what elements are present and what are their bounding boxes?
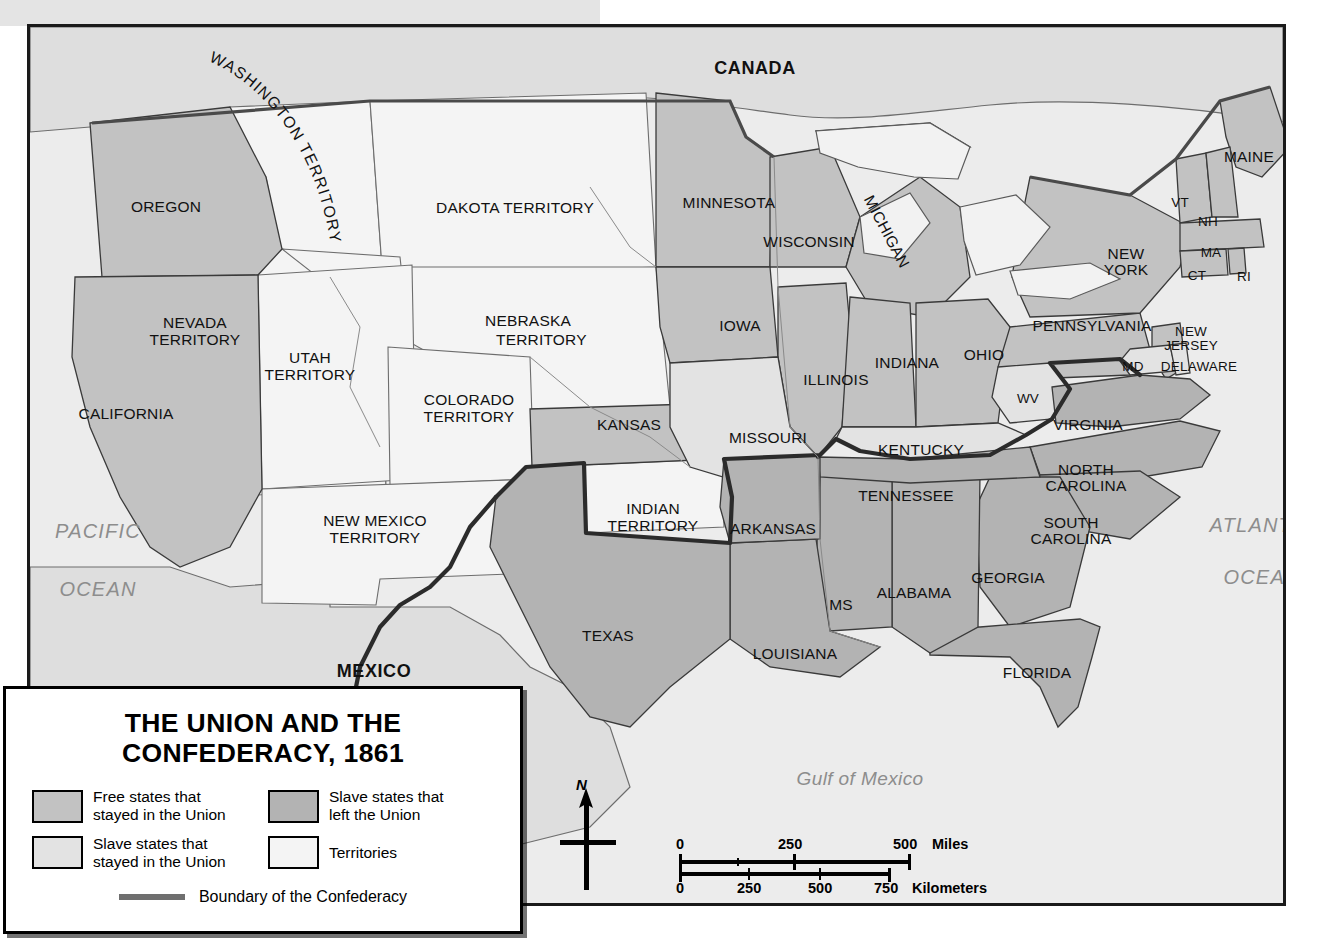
legend-swatch-free-states-union: [32, 790, 83, 823]
legend-label-line2: stayed in the Union: [93, 853, 226, 870]
scale-unit-miles: Miles: [932, 836, 968, 852]
legend-title-line2: CONFEDERACY, 1861: [122, 738, 404, 768]
scale-km-tick-0: 0: [676, 880, 684, 896]
legend-label-line1: Slave states that: [93, 835, 208, 852]
scale-miles-tick-500: 500: [893, 836, 917, 852]
scale-km-tick-750: 750: [874, 880, 898, 896]
legend-label-line2: stayed in the Union: [93, 806, 226, 823]
compass-north-label: N: [576, 776, 587, 793]
legend-item-free-states-union[interactable]: Free states thatstayed in the Union: [32, 788, 258, 824]
map-legend: THE UNION AND THECONFEDERACY, 1861 Free …: [3, 686, 523, 934]
scale-km-tick-500: 500: [808, 880, 832, 896]
legend-item-territories[interactable]: Territories: [268, 835, 494, 871]
legend-title: THE UNION AND THECONFEDERACY, 1861: [22, 709, 504, 768]
legend-label-line1: Slave states that: [329, 788, 444, 805]
legend-item-slave-states-stayed[interactable]: Slave states thatstayed in the Union: [32, 835, 258, 871]
legend-title-line1: THE UNION AND THE: [125, 708, 402, 738]
compass-rose: N: [560, 778, 616, 894]
legend-label-territories: Territories: [329, 844, 397, 862]
legend-label-slave-states-stayed: Slave states thatstayed in the Union: [93, 835, 226, 871]
legend-line-confederacy-boundary: [119, 894, 185, 900]
map-page: .terr { fill:#f4f4f4; stroke:#6d6d6d; st…: [0, 0, 1319, 948]
legend-label-confederacy-boundary: Boundary of the Confederacy: [199, 888, 407, 906]
legend-label-free-states-union: Free states thatstayed in the Union: [93, 788, 226, 824]
map-scale-bar: 0 250 500 Miles 0 250 500 750 Kilometers: [675, 838, 995, 900]
page-top-strip: [0, 0, 600, 26]
scale-unit-kilometers: Kilometers: [912, 880, 987, 896]
compass-icon: [560, 778, 616, 894]
scale-miles-tick-0: 0: [676, 836, 684, 852]
legend-label-line2: left the Union: [329, 806, 420, 823]
legend-item-confederacy-boundary[interactable]: Boundary of the Confederacy: [22, 888, 504, 906]
page-top-strip-right: [600, 0, 1319, 26]
legend-swatch-slave-states-left: [268, 790, 319, 823]
legend-swatch-territories: [268, 836, 319, 869]
scale-miles-tick-250: 250: [778, 836, 802, 852]
legend-swatch-slave-states-stayed: [32, 836, 83, 869]
legend-items: Free states thatstayed in the Union Slav…: [22, 788, 504, 870]
legend-label-slave-states-left: Slave states thatleft the Union: [329, 788, 444, 824]
legend-item-slave-states-left[interactable]: Slave states thatleft the Union: [268, 788, 494, 824]
legend-label-line1: Free states that: [93, 788, 201, 805]
scale-km-tick-250: 250: [737, 880, 761, 896]
